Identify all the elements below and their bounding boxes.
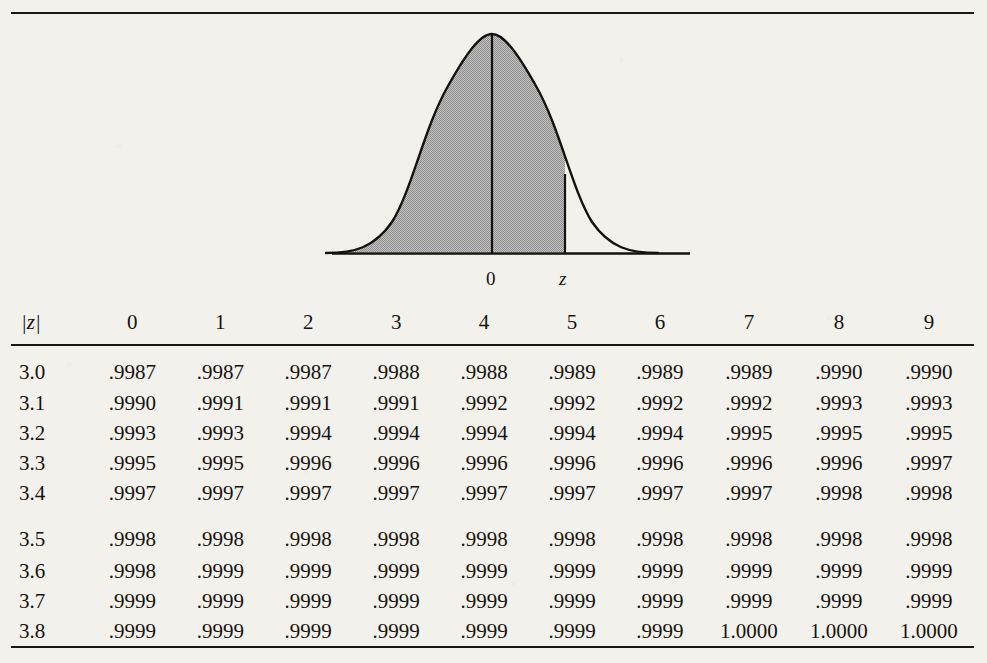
axis-label-zero: 0: [486, 268, 496, 290]
table-row: 3.4.9997.9997.9997.9997.9997.9997.9997.9…: [11, 478, 974, 508]
table-cell: .9995: [704, 418, 794, 448]
header-cell-4: 4: [440, 300, 528, 345]
table-cell: .9999: [528, 556, 616, 586]
table-cell: .9999: [794, 556, 884, 586]
table-cell: .9990: [794, 345, 884, 388]
curve-axis-labels: 0 z: [320, 268, 700, 294]
table-cell: .9998: [884, 508, 974, 556]
table-cell: .9992: [528, 388, 616, 418]
table-cell: .9997: [176, 478, 264, 508]
table-cell: .9998: [440, 508, 528, 556]
table-cell: .9992: [440, 388, 528, 418]
table-row: 3.6.9998.9999.9999.9999.9999.9999.9999.9…: [11, 556, 974, 586]
table-cell: .9987: [88, 345, 176, 388]
table-cell: .9999: [616, 616, 704, 646]
table-cell: .9988: [440, 345, 528, 388]
header-cell-0: 0: [88, 300, 176, 345]
table-cell: .9998: [176, 508, 264, 556]
table-cell: 1.0000: [704, 616, 794, 646]
table-cell: .9992: [704, 388, 794, 418]
header-cell-7: 7: [704, 300, 794, 345]
table-row: 3.2.9993.9993.9994.9994.9994.9994.9994.9…: [11, 418, 974, 448]
table-cell: .9994: [264, 418, 352, 448]
row-label-z: 3.7: [11, 586, 88, 616]
table-cell: .9999: [352, 556, 440, 586]
header-cell-9: 9: [884, 300, 974, 345]
table-cell: .9996: [704, 448, 794, 478]
table-row: 3.8.9999.9999.9999.9999.9999.9999.99991.…: [11, 616, 974, 646]
header-cell-8: 8: [794, 300, 884, 345]
table-cell: .9998: [88, 556, 176, 586]
table-body: 3.0.9987.9987.9987.9988.9988.9989.9989.9…: [11, 345, 974, 646]
table-cell: .9997: [440, 478, 528, 508]
table-cell: .9999: [264, 586, 352, 616]
table-cell: .9994: [616, 418, 704, 448]
header-cell-6: 6: [616, 300, 704, 345]
table-cell: .9999: [352, 586, 440, 616]
table-cell: .9998: [616, 508, 704, 556]
row-label-z: 3.0: [11, 345, 88, 388]
table-cell: .9987: [264, 345, 352, 388]
table-cell: .9993: [884, 388, 974, 418]
table-cell: .9999: [352, 616, 440, 646]
table-cell: .9999: [794, 586, 884, 616]
header-cell-z: |z|: [11, 300, 88, 345]
table-cell: .9993: [794, 388, 884, 418]
table-cell: 1.0000: [884, 616, 974, 646]
table-cell: .9999: [616, 556, 704, 586]
table-cell: .9999: [88, 616, 176, 646]
table-cell: .9998: [794, 478, 884, 508]
table-cell: .9996: [528, 448, 616, 478]
row-label-z: 3.8: [11, 616, 88, 646]
page-bottom-rule: [11, 646, 974, 648]
table-cell: .9995: [884, 418, 974, 448]
table-cell: .9997: [616, 478, 704, 508]
table-cell: .9999: [440, 586, 528, 616]
axis-label-z: z: [559, 268, 566, 290]
table-cell: .9997: [528, 478, 616, 508]
table-cell: .9999: [528, 586, 616, 616]
table-row: 3.7.9999.9999.9999.9999.9999.9999.9999.9…: [11, 586, 974, 616]
row-label-z: 3.4: [11, 478, 88, 508]
table-cell: .9994: [440, 418, 528, 448]
table-cell: .9994: [352, 418, 440, 448]
table-cell: .9995: [88, 448, 176, 478]
table-header: |z| 0 1 2 3 4 5 6 7 8 9: [11, 300, 974, 345]
normal-curve-svg: [320, 24, 700, 274]
table-cell: 1.0000: [794, 616, 884, 646]
table-cell: .9999: [528, 616, 616, 646]
table-cell: .9996: [794, 448, 884, 478]
table-cell: .9991: [176, 388, 264, 418]
table-cell: .9999: [704, 586, 794, 616]
table-cell: .9987: [176, 345, 264, 388]
table-cell: .9989: [704, 345, 794, 388]
table-row: 3.1.9990.9991.9991.9991.9992.9992.9992.9…: [11, 388, 974, 418]
table-cell: .9998: [264, 508, 352, 556]
table-cell: .9997: [884, 448, 974, 478]
row-label-z: 3.3: [11, 448, 88, 478]
table-cell: .9999: [704, 556, 794, 586]
table-cell: .9999: [176, 616, 264, 646]
table-cell: .9999: [440, 616, 528, 646]
header-row: |z| 0 1 2 3 4 5 6 7 8 9: [11, 300, 974, 345]
table-cell: .9999: [264, 616, 352, 646]
table-row: 3.3.9995.9995.9996.9996.9996.9996.9996.9…: [11, 448, 974, 478]
table-cell: .9990: [884, 345, 974, 388]
table-cell: .9988: [352, 345, 440, 388]
page-top-rule: [11, 12, 974, 14]
table-cell: .9998: [704, 508, 794, 556]
header-cell-1: 1: [176, 300, 264, 345]
normal-curve-figure: [320, 24, 700, 274]
table-cell: .9996: [440, 448, 528, 478]
z-score-table: |z| 0 1 2 3 4 5 6 7 8 9 3.0.9987.9987.99…: [11, 300, 974, 646]
header-cell-5: 5: [528, 300, 616, 345]
row-label-z: 3.2: [11, 418, 88, 448]
header-cell-3: 3: [352, 300, 440, 345]
header-cell-2: 2: [264, 300, 352, 345]
table-cell: .9994: [528, 418, 616, 448]
table-cell: .9997: [264, 478, 352, 508]
row-label-z: 3.5: [11, 508, 88, 556]
table-cell: .9997: [88, 478, 176, 508]
table-cell: .9990: [88, 388, 176, 418]
row-label-z: 3.6: [11, 556, 88, 586]
